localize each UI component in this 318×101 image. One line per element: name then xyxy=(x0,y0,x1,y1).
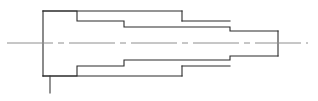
technical-drawing-canvas xyxy=(0,0,318,101)
upper-outer-profile-path xyxy=(43,11,278,31)
stepped-shaft-drawing xyxy=(0,0,318,101)
lower-outer-profile-path xyxy=(43,56,278,76)
